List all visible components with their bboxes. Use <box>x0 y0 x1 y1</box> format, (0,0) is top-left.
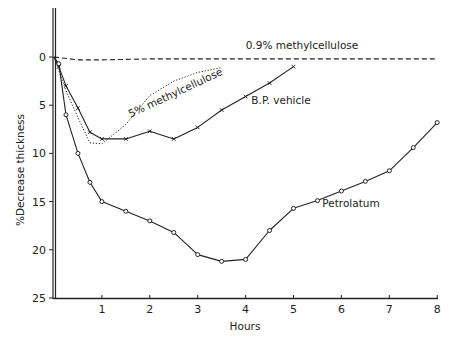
data-point-circle <box>196 253 200 257</box>
data-point-circle <box>76 151 80 155</box>
annotation-0.9-methylcellulose: 0.9% methylcellulose <box>246 39 359 51</box>
data-point-circle <box>172 230 176 234</box>
y-tick-label: 25 <box>32 292 46 305</box>
line-chart: 12345678 0510152025 Hours %Decrease thic… <box>0 0 451 344</box>
x-tick-label: 7 <box>386 303 393 316</box>
y-axis-title: %Decrease thickness <box>14 114 26 226</box>
data-point-x <box>88 130 92 134</box>
y-axis-ticks: 0510152025 <box>32 51 53 305</box>
data-point-circle <box>124 209 128 213</box>
x-tick-label: 2 <box>146 303 153 316</box>
y-tick-label: 15 <box>32 196 46 209</box>
annotation-bp-vehicle: B.P. vehicle <box>251 94 310 106</box>
x-tick-label: 5 <box>290 303 297 316</box>
data-point-x <box>244 95 248 99</box>
y-tick-label: 0 <box>39 51 46 64</box>
data-point-circle <box>244 257 248 261</box>
x-axis-title: Hours <box>230 320 261 332</box>
annotation-petrolatum: Petrolatum <box>322 197 379 209</box>
data-point-circle <box>88 180 92 184</box>
annotation-5-methylcellulose: 5% methylcellulose <box>126 65 224 119</box>
data-point-x <box>76 106 80 110</box>
data-point-circle <box>268 229 272 233</box>
y-tick-label: 5 <box>39 99 46 112</box>
y-axis <box>53 8 56 299</box>
y-tick-label: 10 <box>32 147 46 160</box>
data-point-circle <box>64 113 68 117</box>
series-petrolatum <box>54 57 439 263</box>
data-point-circle <box>57 62 61 66</box>
data-point-circle <box>435 121 439 125</box>
data-point-x <box>292 65 296 69</box>
x-tick-label: 3 <box>194 303 201 316</box>
x-tick-label: 6 <box>338 303 345 316</box>
series-0-9-methylcellulose <box>54 57 437 60</box>
y-tick-label: 20 <box>32 244 46 257</box>
x-tick-label: 4 <box>242 303 249 316</box>
data-point-circle <box>292 206 296 210</box>
data-point-circle <box>387 169 391 173</box>
data-point-x <box>268 81 272 85</box>
series-layer <box>54 57 439 263</box>
data-point-x <box>220 108 224 112</box>
data-point-circle <box>315 199 319 203</box>
data-point-circle <box>363 179 367 183</box>
data-point-circle <box>220 259 224 263</box>
data-point-circle <box>100 200 104 204</box>
data-point-circle <box>411 146 415 150</box>
x-tick-label: 8 <box>434 303 441 316</box>
series-5-methylcellulose <box>54 57 222 144</box>
data-point-circle <box>339 189 343 193</box>
x-tick-label: 1 <box>98 303 105 316</box>
data-point-circle <box>148 219 152 223</box>
data-point-x <box>196 126 200 130</box>
